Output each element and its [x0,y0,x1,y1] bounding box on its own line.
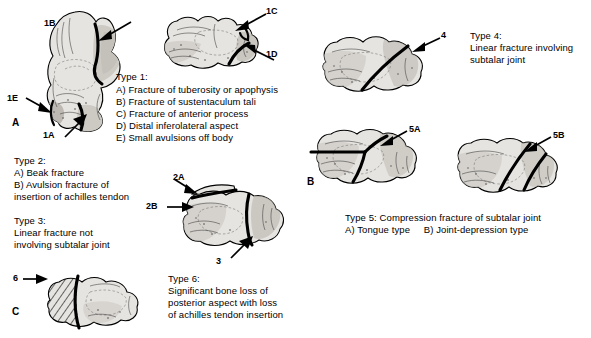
callout-5a: 5A [409,124,421,134]
panel-letter-b: B [307,176,314,187]
type2-item-b-cont: insertion of achilles tendon [14,191,129,203]
callout-1c: 1C [266,6,278,16]
type2-heading: Type 2: [14,155,46,167]
callout-6: 6 [13,273,18,283]
callout-arrow-1a [58,112,90,140]
callout-4: 4 [441,30,446,40]
type2-item-a: A) Beak fracture [14,167,84,179]
callout-2b: 2B [146,201,158,211]
callout-arrow-5b [522,134,554,154]
callout-arrow-1b [95,18,137,44]
type4-line-2: subtalar joint [470,54,525,66]
type5-caption: Type 5: Compression fracture of subtalar… [345,212,541,224]
type3-heading: Type 3: [14,215,46,227]
callout-arrow-1c [232,10,270,34]
callout-5b: 5B [553,130,565,140]
callout-3: 3 [216,256,221,266]
callout-1a: 1A [43,130,55,140]
type6-line-2: posterior aspect with loss [168,297,277,309]
type1-item-c: C) Fracture of anterior process [116,108,248,120]
type1-item-b: B) Fracture of sustentaculum tali [116,96,256,108]
type1-item-e: E) Small avulsions off body [116,132,233,144]
callout-arrow-6 [22,272,50,286]
bone-illustration-bone-loss [42,270,150,332]
callout-arrow-1e [24,94,56,116]
type3-line-2: involving subtalar joint [14,239,110,251]
callout-1e: 1E [7,93,18,103]
panel-letter-a: A [12,117,19,128]
type2-item-b: B) Avulsion fracture of [14,179,109,191]
panel-letter-c: C [12,306,19,317]
callout-1b: 1B [44,18,56,28]
type6-line-3: of achilles tendon insertion [168,309,283,321]
calcaneal-fracture-figure: 1B 1A 1E A [0,0,591,338]
type6-heading: Type 6: [168,273,200,285]
callout-arrow-2b [166,200,196,214]
callout-arrow-3 [227,235,257,261]
type5-subtypes: A) Tongue type B) Joint-depression type [345,224,528,236]
callout-2a: 2A [173,172,185,182]
callout-arrow-4 [409,34,443,54]
type1-item-a: A) Fracture of tuberosity or apophysis [116,84,278,96]
callout-arrow-5a [378,128,410,148]
callout-1d: 1D [266,49,278,59]
type4-line-1: Linear fracture involving [470,42,573,54]
type6-line-1: Significant bone loss of [168,285,268,297]
type4-heading: Type 4: [470,30,502,42]
type3-line-1: Linear fracture not [14,227,93,239]
type1-heading: Type 1: [116,71,148,83]
type1-item-d: D) Distal inferolateral aspect [116,120,238,132]
